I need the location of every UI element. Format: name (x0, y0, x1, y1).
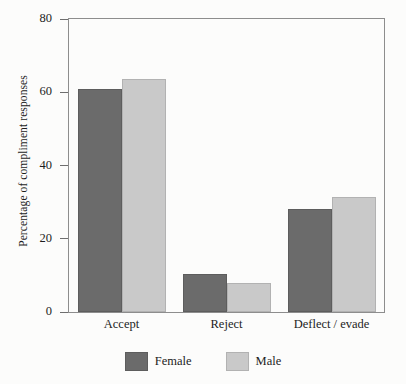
y-tick-label: 60 (12, 85, 52, 98)
y-tick-mark (60, 19, 68, 20)
y-tick-mark (60, 165, 68, 166)
x-category-label: Deflect / evade (279, 318, 384, 332)
legend-label-male: Male (256, 355, 282, 368)
y-tick-mark (60, 238, 68, 239)
bar-reject-male (227, 283, 271, 312)
bar-accept-male (122, 79, 166, 312)
legend-label-female: Female (155, 355, 192, 368)
y-tick-label: 20 (12, 232, 52, 245)
bar-reject-female (183, 274, 227, 312)
x-category-label: Reject (174, 318, 279, 332)
legend-swatch-male-icon (226, 352, 249, 371)
y-tick-mark (60, 92, 68, 93)
chart-legend: Female Male (0, 352, 406, 371)
y-tick-mark (60, 312, 68, 313)
plot-inner (69, 19, 384, 312)
bar-deflect-evade-male (332, 197, 376, 312)
legend-item-male: Male (226, 352, 282, 371)
y-tick-label: 80 (12, 12, 52, 25)
bar-accept-female (78, 89, 122, 312)
legend-swatch-female-icon (125, 352, 148, 371)
legend-item-female: Female (125, 352, 192, 371)
bar-chart-figure: Percentage of compliment responses 80604… (0, 0, 406, 384)
plot-area (68, 18, 385, 313)
bar-deflect-evade-female (288, 209, 332, 312)
y-tick-label: 40 (12, 159, 52, 172)
y-tick-label: 0 (12, 305, 52, 318)
x-category-label: Accept (69, 318, 174, 332)
